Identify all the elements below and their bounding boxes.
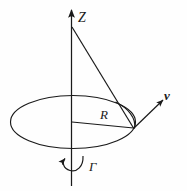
rotation-arc-arrow (63, 156, 83, 171)
radius-label: R (100, 108, 108, 121)
rotation-label: Γ (89, 160, 96, 173)
conical-pendulum-figure: Z R v Γ (0, 0, 187, 191)
velocity-label: v (164, 89, 170, 102)
velocity-vector-line (134, 100, 164, 129)
z-axis-label: Z (78, 11, 86, 25)
radius-line (72, 122, 134, 128)
